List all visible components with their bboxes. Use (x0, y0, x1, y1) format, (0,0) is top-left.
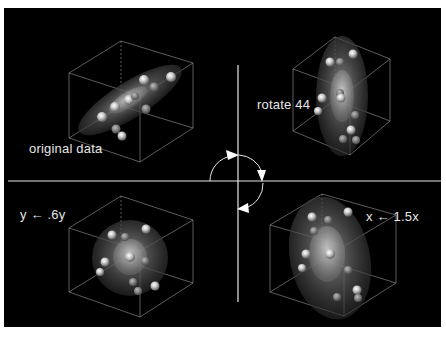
panel-y-scaled (69, 196, 193, 317)
label-original-data: original data (29, 141, 102, 156)
label-y-scaled: y ← .6y (20, 207, 65, 222)
label-x-scaled: x ← 1.5x (366, 209, 419, 224)
label-rotate-44: rotate 44 (257, 97, 310, 112)
panel-rotate-44 (293, 36, 390, 156)
figure-graphics (0, 0, 446, 339)
